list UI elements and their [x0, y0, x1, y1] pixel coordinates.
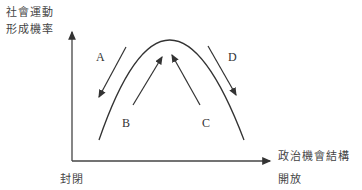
arrow-c: [172, 55, 200, 105]
arrow-b: [133, 57, 162, 105]
inverted-u-curve: [99, 40, 244, 140]
x-axis-high-label: 開放: [278, 170, 302, 186]
arrow-c-label: C: [202, 116, 210, 131]
y-axis-label-line1: 社會運動: [6, 3, 54, 19]
x-axis-low-label: 封閉: [60, 170, 84, 186]
y-axis-label-line2: 形成機率: [6, 20, 54, 36]
arrow-b-label: B: [122, 116, 130, 131]
x-axis-label: 政治機會結構: [278, 147, 350, 163]
arrow-a-label: A: [96, 50, 105, 65]
arrow-d-label: D: [228, 50, 237, 65]
